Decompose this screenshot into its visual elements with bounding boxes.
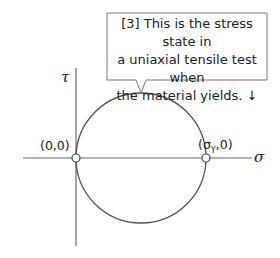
yield-label-prefix: (σ <box>198 137 211 152</box>
callout-text: [3] This is the stress state in a uniaxi… <box>108 15 266 105</box>
callout-line-1: [3] This is the stress state in <box>108 15 266 51</box>
yield-point-label: (σY,0) <box>198 137 233 155</box>
origin-label: (0,0) <box>40 138 70 153</box>
callout-line-2: a uniaxial tensile test when <box>108 51 266 87</box>
sigma-axis-label: σ <box>254 148 264 166</box>
yield-point <box>202 154 210 162</box>
callout-line-3: the material yields. ↓ <box>108 87 266 105</box>
tau-axis-label: τ <box>61 68 69 86</box>
mohr-circle-diagram: [3] This is the stress state in a uniaxi… <box>0 0 280 258</box>
origin-point <box>72 154 80 162</box>
yield-label-suffix: ,0) <box>216 137 233 152</box>
